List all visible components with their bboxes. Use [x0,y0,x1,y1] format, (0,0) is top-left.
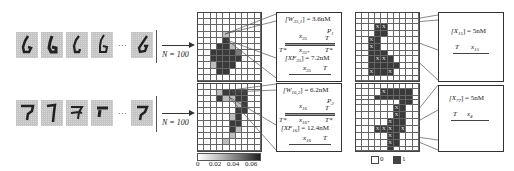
input-box-6: [X15] = 5nM T x15 [438,12,504,82]
xf-strand [289,144,331,145]
binary-input-grid-6: XXXXXXXX [355,12,420,82]
bottom-label: x35 [303,64,311,73]
legend-one-label: 1 [402,155,406,163]
weight-concentration: [W16,2] = 6.2nM [283,86,329,95]
strand-top-label: x35 [299,32,307,41]
bottom-T: T [323,134,327,142]
weight-box-7: [W16,2] = 6.2nM P2 x16 T T* x16* T* [XF1… [276,83,342,152]
xf-strand [289,74,331,75]
bottom-label: x16 [303,134,311,143]
weight-concentration: [W35,1] = 3.6nM [285,15,331,24]
grid-cell [413,105,419,112]
grid-cell [413,147,419,152]
input-concentration: [X77] = 5nM [449,94,484,103]
left-T-star: T* [279,116,286,124]
grid-cell [413,44,419,51]
grid-cell [413,112,419,119]
grid-cell [413,24,419,31]
right-T-star: T* [325,116,332,124]
input-strand [453,53,489,54]
input-concentration: [X15] = 5nM [451,27,486,36]
grid-cell [413,37,419,44]
legend-one-swatch [393,156,401,164]
connector-lines [0,0,514,171]
strand-top-label: x16 [299,102,307,111]
legend-zero-label: 0 [380,155,384,163]
xf-concentration: [XF16] = 12.4nM [281,124,329,133]
input-T: T [455,43,459,51]
grid-cell [413,119,419,126]
grid-cell [413,69,419,76]
input-x: x4 [467,110,473,119]
xf-concentration: [XF35] = 7.2nM [285,54,330,63]
input-strand [451,120,489,121]
input-T: T [453,110,457,118]
left-T-star: T* [279,46,286,54]
grid-cell [413,140,419,147]
bottom-T: T [323,64,327,72]
weight-box-6: [W35,1] = 3.6nM P1 x35 T T* x35* T* [XF3… [276,12,342,82]
grid-cell [413,56,419,63]
grid-cell [413,126,419,133]
input-box-7: [X77] = 5nM T x4 [438,85,504,152]
strand-top-T: T [325,104,329,112]
grid-cell [413,89,419,96]
legend-zero-swatch [371,156,379,164]
strand-top-T: T [325,34,329,42]
input-x: x15 [471,43,479,52]
binary-input-grid-7: XXXXXXXXXX [355,83,420,152]
grid-cell [413,133,419,140]
right-T-star: T* [325,46,332,54]
grid-cell [413,76,419,82]
